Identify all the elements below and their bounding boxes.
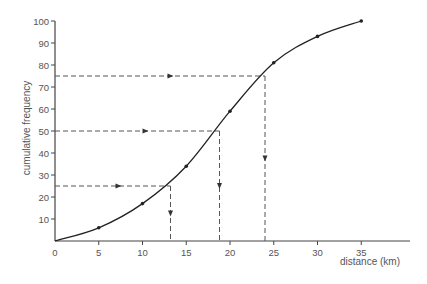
data-points — [97, 19, 363, 229]
y-tick-label: 50 — [38, 126, 49, 137]
arrow-down-icon — [263, 156, 268, 162]
y-tick-label: 10 — [38, 214, 49, 225]
y-tick-label: 60 — [38, 104, 49, 115]
y-tick-label: 70 — [38, 82, 49, 93]
cumulative-frequency-chart: 10203040506070809010005101520253035 cumu… — [0, 0, 427, 284]
y-tick-label: 30 — [38, 170, 49, 181]
x-axis-label: distance (km) — [340, 256, 400, 267]
x-tick-label: 15 — [181, 247, 192, 258]
arrow-right-icon — [168, 74, 174, 79]
y-tick-label: 90 — [38, 38, 49, 49]
arrow-down-icon — [217, 183, 222, 189]
data-point — [97, 226, 101, 230]
tick-labels: 10203040506070809010005101520253035 — [33, 16, 366, 259]
data-point — [141, 202, 145, 206]
axes — [51, 21, 410, 245]
data-point — [359, 19, 363, 23]
arrow-down-icon — [168, 211, 173, 217]
x-tick-label: 10 — [137, 247, 148, 258]
y-tick-label: 20 — [38, 192, 49, 203]
arrow-right-icon — [116, 184, 122, 189]
data-point — [228, 109, 232, 113]
x-tick-label: 20 — [225, 247, 236, 258]
y-tick-label: 80 — [38, 60, 49, 71]
data-point — [316, 35, 320, 39]
y-tick-label: 40 — [38, 148, 49, 159]
x-tick-label: 30 — [312, 247, 323, 258]
data-point — [184, 164, 188, 168]
x-tick-label: 5 — [96, 247, 101, 258]
y-axis-label: cumulative frequency — [21, 81, 32, 176]
x-tick-label: 25 — [268, 247, 279, 258]
y-tick-label: 100 — [33, 16, 49, 27]
quartile-guides — [55, 74, 268, 242]
data-point — [272, 61, 276, 65]
x-tick-label: 0 — [52, 247, 57, 258]
arrow-right-icon — [142, 129, 148, 134]
